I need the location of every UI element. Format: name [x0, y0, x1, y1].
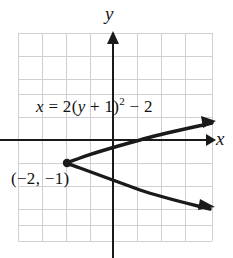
vertex-coordinate-label: (−2, −1): [11, 170, 69, 187]
grid-lines: [18, 33, 212, 241]
y-axis: [107, 31, 119, 258]
y-axis-label: y: [105, 4, 113, 23]
x-axis-arrowhead-icon: [206, 134, 216, 146]
equation-coefficient: 2(: [63, 97, 78, 116]
equation-lhs: x: [36, 97, 44, 116]
coordinate-graph-figure: y x x = 2(y + 1)2 − 2 (−2, −1): [0, 0, 233, 258]
equation-inner-rest: + 1): [85, 97, 119, 116]
equation-equals: =: [44, 97, 63, 116]
x-axis: [0, 134, 216, 146]
vertex-point-marker: [63, 159, 71, 167]
upper-branch-arrowhead-icon: [201, 116, 216, 128]
graph-canvas: [0, 0, 233, 258]
x-axis-label: x: [216, 129, 224, 148]
equation-tail: − 2: [125, 97, 153, 116]
equation-annotation: x = 2(y + 1)2 − 2: [36, 96, 153, 115]
